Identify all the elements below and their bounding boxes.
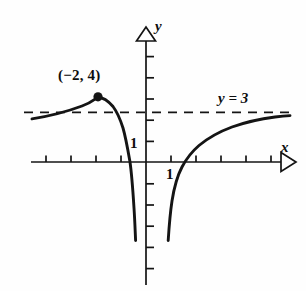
x-axis-arrowhead-icon <box>281 153 296 172</box>
graph-figure: (−2, 4) y = 3 x y 1 1 <box>0 0 306 291</box>
x-axis-label: x <box>281 140 289 155</box>
curve-left-branch <box>32 97 136 240</box>
x-axis-tick-label-1: 1 <box>166 167 174 182</box>
y-axis-tick-label-1: 1 <box>130 136 138 151</box>
y-axis-group <box>137 27 156 285</box>
point-coordinate-label: (−2, 4) <box>58 68 100 83</box>
x-axis-group <box>31 153 296 172</box>
local-maximum-point-marker <box>93 92 102 101</box>
curve-right-branch <box>168 116 290 241</box>
x-axis-ticks <box>46 156 271 163</box>
y-axis-label: y <box>155 19 162 34</box>
graph-canvas <box>0 0 306 291</box>
asymptote-equation-label: y = 3 <box>218 91 248 106</box>
y-axis-arrowhead-icon <box>137 27 156 41</box>
